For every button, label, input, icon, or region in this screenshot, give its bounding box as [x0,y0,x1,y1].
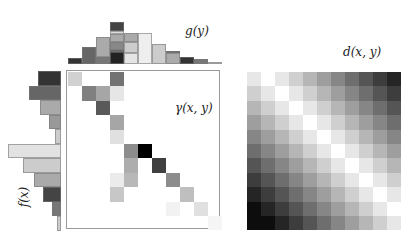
d-cell [345,101,359,115]
d-cell [303,101,317,115]
d-cell [331,86,345,100]
gamma-cell [110,130,124,144]
d-cell [289,86,303,100]
d-cell [331,115,345,129]
d-cell [331,158,345,172]
d-cell [359,202,373,216]
d-cell [359,72,373,86]
d-cell [331,101,345,115]
d-cell [247,86,261,100]
d-cell [289,202,303,216]
g-bar-segment [194,59,208,64]
g-bar-segment [96,37,110,57]
d-cell [387,130,401,144]
d-cell [331,202,345,216]
d-cell [317,187,331,201]
d-cell [303,130,317,144]
g-bar-segment [96,57,110,64]
gamma-cell [124,173,138,187]
g-bar-segment [166,51,180,53]
d-cell [373,130,387,144]
gamma-label: γ(x, y) [175,101,213,115]
d-cell [303,86,317,100]
f-bar [49,115,61,130]
d-cell [247,187,261,201]
d-cell [345,202,359,216]
d-cell [345,130,359,144]
d-cell [247,202,261,216]
d-cell [303,187,317,201]
d-cell [345,115,359,129]
d-cell [247,130,261,144]
d-cell [317,144,331,158]
d-cell [387,202,401,216]
d-cell [289,144,303,158]
g-bar-segment [110,50,124,52]
gamma-cell [166,173,180,187]
d-cell [387,86,401,100]
d-cell [373,86,387,100]
g-bar-segment [124,42,138,53]
d-cell [387,144,401,158]
g-bar-segment [110,34,124,42]
d-cell [275,130,289,144]
g-bar-segment [110,22,124,31]
d-cell [317,158,331,172]
d-cell [317,101,331,115]
d-cell [261,202,275,216]
d-cell [303,115,317,129]
d-cell [317,86,331,100]
d-cell [359,173,373,187]
d-cell [331,72,345,86]
g-bar-segment [110,31,124,34]
d-cell [373,158,387,172]
gamma-cell [180,187,194,201]
d-label: d(x, y) [343,45,381,59]
d-cell [387,187,401,201]
d-cell [289,115,303,129]
gamma-cell [110,86,124,100]
d-cell [359,158,373,172]
f-bar [38,71,61,86]
d-cell [289,187,303,201]
g-bar-segment [166,53,180,64]
d-cell [345,144,359,158]
g-bar-segment [110,52,124,64]
g-bar-segment [208,62,222,64]
d-cell [317,130,331,144]
f-bar [43,187,61,202]
d-cell [359,187,373,201]
d-cell [289,158,303,172]
f-bar [29,86,61,101]
d-cell [275,101,289,115]
d-cell [345,187,359,201]
d-cell [373,216,387,230]
d-cell [289,101,303,115]
gamma-cell [138,144,152,158]
d-cell [303,158,317,172]
d-cell [275,173,289,187]
d-cell [373,101,387,115]
d-cell [373,173,387,187]
f-bar [55,129,61,144]
d-cell [345,158,359,172]
d-cell [289,173,303,187]
gamma-cell [68,72,82,86]
d-cell [275,115,289,129]
d-cell [247,158,261,172]
d-cell [317,202,331,216]
d-cell [275,187,289,201]
d-cell [345,173,359,187]
g-bar-segment [138,33,152,64]
f-bar [57,216,61,231]
d-cell [261,158,275,172]
f-bar [8,144,61,159]
d-cell [289,130,303,144]
gamma-cell [96,101,110,115]
g-bar-segment [110,42,124,50]
d-cell [289,72,303,86]
d-cell [331,187,345,201]
d-cell [359,115,373,129]
d-cell [275,158,289,172]
gamma-matrix [66,70,220,229]
